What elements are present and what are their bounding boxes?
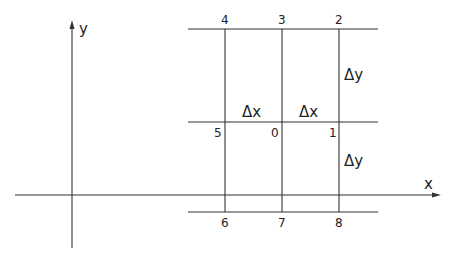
delta-x-right-label: Δx — [299, 103, 318, 121]
delta-y-top-label: Δy — [344, 66, 363, 84]
point-label-5: 5 — [214, 126, 222, 140]
point-label-3: 3 — [278, 13, 286, 27]
y-axis-label: y — [79, 20, 88, 38]
point-label-6: 6 — [221, 216, 229, 230]
x-axis-label: x — [424, 175, 433, 193]
delta-x-left-label: Δx — [242, 103, 261, 121]
x-axis-arrow-icon — [432, 193, 441, 198]
finite-difference-grid-diagram: y x 4 3 2 5 0 1 6 7 8 Δx Δx Δy Δy — [0, 0, 453, 260]
point-label-4: 4 — [221, 13, 229, 27]
point-label-2: 2 — [335, 13, 343, 27]
point-label-1: 1 — [329, 126, 337, 140]
delta-y-bottom-label: Δy — [344, 152, 363, 170]
point-label-7: 7 — [278, 216, 286, 230]
point-label-0: 0 — [271, 126, 279, 140]
point-label-8: 8 — [335, 216, 343, 230]
y-axis-arrow-icon — [70, 20, 75, 29]
